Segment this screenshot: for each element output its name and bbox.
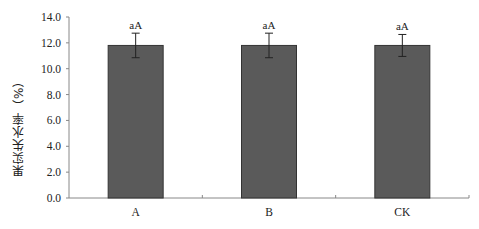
significance-label: aA <box>263 19 276 31</box>
category-label: CK <box>394 206 411 218</box>
significance-labels: aAaAaA <box>129 19 409 32</box>
bar-b <box>242 45 297 198</box>
y-tick-label: 12.0 <box>41 37 61 49</box>
y-tick-label: 14.0 <box>41 11 61 23</box>
bar-a <box>108 45 163 198</box>
significance-label: aA <box>129 19 142 31</box>
category-label: B <box>265 206 273 218</box>
category-labels: ABCK <box>132 206 412 218</box>
y-tick-label: 4.0 <box>47 140 62 152</box>
y-tick-label: 6.0 <box>47 114 62 126</box>
y-tick-label: 0.0 <box>47 192 62 204</box>
significance-label: aA <box>396 20 409 32</box>
bars <box>108 45 430 198</box>
bar-ck <box>375 45 430 198</box>
category-label: A <box>132 206 141 218</box>
y-tick-label: 2.0 <box>47 166 62 178</box>
bar-chart: 0.02.04.06.08.010.012.014.0 aAaAaA ABCK <box>0 0 479 229</box>
y-tick-label: 8.0 <box>47 89 62 101</box>
error-bars <box>132 33 407 58</box>
y-tick-label: 10.0 <box>41 63 61 75</box>
y-axis-ticks: 0.02.04.06.08.010.012.014.0 <box>41 11 69 204</box>
